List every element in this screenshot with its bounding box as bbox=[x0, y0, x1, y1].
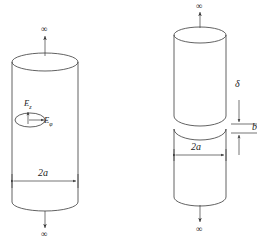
field-azimuthal-subscript: φ bbox=[49, 121, 52, 127]
figure-canvas: ∞ ∞ Ez Eφ 2a ∞ ∞ δ b 2a bbox=[0, 0, 257, 242]
field-axial-subscript: z bbox=[29, 104, 31, 110]
edge-mark-label: b bbox=[252, 122, 257, 132]
right-cylinder-group bbox=[174, 12, 257, 222]
right-top-infinity-label: ∞ bbox=[196, 2, 202, 11]
field-axial-label: Ez bbox=[24, 99, 32, 110]
right-diameter-label: 2a bbox=[191, 142, 201, 152]
left-top-infinity-label: ∞ bbox=[41, 25, 47, 34]
right-lower-bottom-arc bbox=[174, 197, 226, 206]
left-cylinder-bottom-arc bbox=[12, 202, 78, 211]
right-upper-top-ellipse bbox=[174, 27, 226, 43]
left-cylinder-group bbox=[12, 36, 78, 228]
left-bottom-infinity-label: ∞ bbox=[41, 230, 47, 239]
right-upper-bottom-arc bbox=[174, 116, 226, 126]
left-diameter-label: 2a bbox=[38, 168, 48, 178]
right-bottom-infinity-label: ∞ bbox=[196, 225, 202, 234]
cylinder-diagram-svg bbox=[0, 0, 257, 242]
field-azimuthal-label: Eφ bbox=[44, 116, 53, 127]
gap-delta-label: δ bbox=[235, 79, 240, 89]
right-lower-top-arc bbox=[174, 129, 226, 140]
